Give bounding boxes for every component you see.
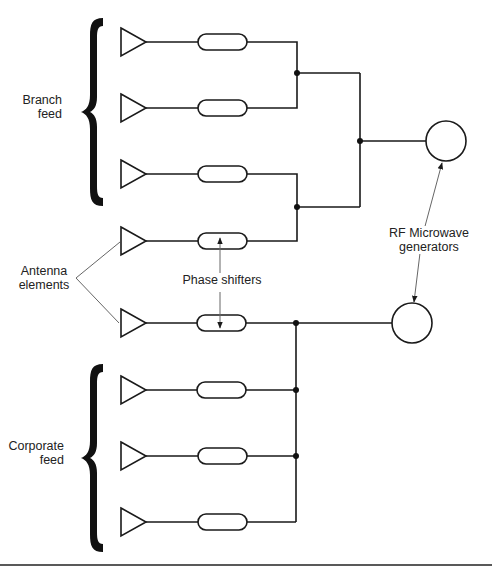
corporate-feed-label-line1: Corporate <box>4 439 64 453</box>
antenna-triangle-6 <box>121 376 146 404</box>
rf-generators-label: RF Microwave generators <box>386 226 472 254</box>
rf-arrow-upper <box>424 163 442 230</box>
junction-dots <box>293 70 363 459</box>
antenna-triangle-2 <box>121 94 146 122</box>
rf-generators-label-line2: generators <box>386 240 472 254</box>
antenna-triangle-8 <box>121 508 146 536</box>
rf-generators-label-line1: RF Microwave <box>386 226 472 240</box>
antenna-triangle-3 <box>121 160 146 188</box>
corporate-feed-brace <box>81 364 103 552</box>
phase-shifter-5 <box>197 315 246 331</box>
phase-shifter-2 <box>198 100 247 116</box>
antenna-elements-label: Antenna elements <box>14 264 74 292</box>
corporate-feed-label: Corporate feed <box>4 439 64 467</box>
rf-arrow-lower <box>414 253 420 302</box>
antenna-triangle-7 <box>121 442 146 470</box>
antenna-triangle-4 <box>121 227 146 255</box>
branch-feed-label-line1: Branch <box>20 93 62 107</box>
phase-shifter-1 <box>198 34 247 50</box>
corporate-feed-label-line2: feed <box>4 453 64 467</box>
phase-shifter-3 <box>198 166 247 182</box>
branch-feed-network <box>247 42 426 241</box>
antenna-elements-label-line1: Antenna <box>14 264 74 278</box>
rf-generator-upper <box>426 121 466 161</box>
antenna-leader-lines <box>76 242 120 323</box>
phase-shifters-label: Phase shifters <box>182 273 262 287</box>
corporate-feed-network <box>246 323 392 522</box>
branch-feed-label-line2: feed <box>20 107 62 121</box>
phase-shifter-8 <box>198 514 247 530</box>
antenna-triangle-1 <box>121 28 146 56</box>
branch-feed-label: Branch feed <box>20 93 62 121</box>
phase-shifter-7 <box>198 448 247 464</box>
rf-generator-lower <box>392 303 432 343</box>
branch-feed-brace <box>81 18 103 206</box>
antenna-elements-label-line2: elements <box>14 278 74 292</box>
antenna-triangle-5 <box>121 309 146 337</box>
phase-shifter-6 <box>197 382 246 398</box>
phase-shifter-4 <box>198 233 247 249</box>
